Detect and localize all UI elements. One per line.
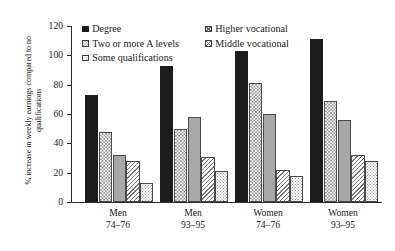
y-tick-label-100: 100	[49, 48, 63, 62]
y-axis-title: % increase in weekly earnings compared t…	[24, 15, 44, 205]
y-tick-20: 20	[67, 173, 72, 174]
bar-women-74-76-degree	[235, 51, 248, 202]
bar-chart: % increase in weekly earnings compared t…	[0, 0, 395, 251]
bar-men-74-76-middle-vocational	[126, 161, 139, 202]
legend-item-higher-vocational: Higher vocational	[205, 22, 289, 36]
y-tick-0: 0	[67, 202, 72, 203]
bar-men-74-76-higher-vocational	[113, 155, 126, 202]
legend-item-some-qualifications: Some qualifications	[82, 51, 179, 65]
y-tick-40: 40	[67, 143, 72, 144]
x-axis-label-line1: Men	[153, 207, 233, 219]
legend-label-middle-vocational: Middle vocational	[215, 38, 289, 50]
y-tick-label-60: 60	[53, 107, 63, 121]
bar-men-93-95-higher-vocational	[188, 117, 201, 202]
y-tick-label-120: 120	[49, 19, 63, 33]
legend-column-right: Higher vocational Middle vocational	[205, 22, 289, 51]
legend-label-two-or-more-a-levels: Two or more A levels	[92, 38, 179, 50]
y-tick-label-40: 40	[53, 136, 63, 150]
x-axis-label-line2: 93–95	[303, 219, 383, 231]
y-tick-100: 100	[67, 55, 72, 56]
x-axis-label-line1: Men	[78, 207, 158, 219]
bar-women-93-95-higher-vocational	[338, 120, 351, 202]
bar-men-93-95-two-or-more-a-levels	[174, 129, 187, 202]
crosshatch-swatch-icon	[205, 26, 212, 33]
bar-women-93-95-middle-vocational	[351, 155, 364, 202]
checkerboard-swatch-icon	[82, 40, 89, 47]
x-axis-label-line2: 93–95	[153, 219, 233, 231]
dotted-swatch-icon	[82, 55, 89, 62]
legend-column-left: Degree Two or more A levels Some qualifi…	[82, 22, 179, 65]
y-tick-label-80: 80	[53, 78, 63, 92]
x-axis-label-men-74-76: Men 74–76	[78, 207, 158, 230]
x-axis-label-line1: Women	[303, 207, 383, 219]
x-axis-label-women-74-76: Women 74–76	[228, 207, 308, 230]
bar-men-74-76-degree	[85, 95, 98, 202]
y-tick-label-20: 20	[53, 166, 63, 180]
bar-men-93-95-degree	[160, 66, 173, 202]
solid-black-swatch-icon	[82, 26, 89, 33]
x-axis-label-men-93-95: Men 93–95	[153, 207, 233, 230]
legend-label-higher-vocational: Higher vocational	[215, 23, 288, 35]
bar-men-74-76-two-or-more-a-levels	[99, 132, 112, 202]
legend-item-degree: Degree	[82, 22, 179, 36]
y-tick-120: 120	[67, 26, 72, 27]
x-axis-label-line1: Women	[228, 207, 308, 219]
bar-women-74-76-some-qualifications	[290, 176, 303, 202]
y-tick-60: 60	[67, 114, 72, 115]
bar-women-74-76-two-or-more-a-levels	[249, 83, 262, 202]
x-axis-label-line2: 74–76	[228, 219, 308, 231]
bar-men-93-95-middle-vocational	[201, 157, 214, 202]
legend-item-two-or-more-a-levels: Two or more A levels	[82, 36, 179, 50]
bar-women-93-95-some-qualifications	[365, 161, 378, 202]
y-tick-label-0: 0	[58, 195, 63, 209]
crosshatch-swatch-icon	[205, 40, 212, 47]
legend-label-some-qualifications: Some qualifications	[92, 52, 172, 64]
bar-women-93-95-degree	[310, 39, 323, 202]
legend-item-middle-vocational: Middle vocational	[205, 36, 289, 50]
bar-women-93-95-two-or-more-a-levels	[324, 101, 337, 202]
bar-women-74-76-higher-vocational	[263, 114, 276, 202]
y-tick-80: 80	[67, 85, 72, 86]
bar-men-74-76-some-qualifications	[140, 183, 153, 202]
x-axis-label-women-93-95: Women 93–95	[303, 207, 383, 230]
bar-women-74-76-middle-vocational	[276, 170, 289, 202]
x-axis-label-line2: 74–76	[78, 219, 158, 231]
legend-label-degree: Degree	[92, 23, 121, 35]
bar-men-93-95-some-qualifications	[215, 171, 228, 202]
